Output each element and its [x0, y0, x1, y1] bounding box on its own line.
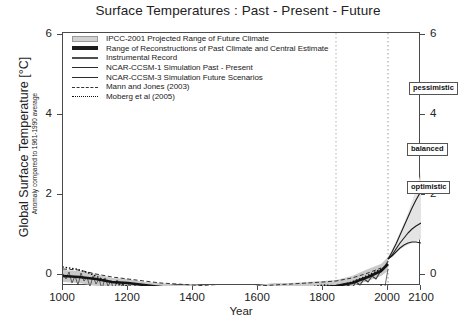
- legend-item-instrumental-record: Instrumental Record: [70, 53, 332, 63]
- x-axis-label: Year: [62, 305, 420, 317]
- annotation-pessimistic: pessimistic: [409, 82, 458, 95]
- y-tick-label-4: 4: [38, 108, 52, 120]
- legend-item-ccsm1: NCAR-CCSM-1 Simulation Past - Present: [70, 63, 332, 73]
- legend-label: Moberg et al (2005): [106, 92, 175, 101]
- x-tick-label-1600: 1600: [237, 292, 277, 304]
- legend-label: Instrumental Record: [106, 53, 177, 62]
- y-axis-label: Global Surface Temperature [°C]: [17, 47, 31, 247]
- legend-label: IPCC-2001 Projected Range of Future Clim…: [106, 34, 269, 43]
- legend-label: Mann and Jones (2003): [106, 82, 189, 91]
- x-tick-label-1800: 1800: [302, 292, 342, 304]
- y-tick-label-2: 2: [38, 188, 52, 200]
- annotation-balanced: balanced: [407, 143, 448, 156]
- legend-swatch-thin-line-icon: [70, 63, 100, 72]
- chart-title: Surface Temperatures : Past - Present - …: [0, 3, 476, 18]
- legend-swatch-band-icon: [70, 34, 100, 43]
- chart-legend: IPCC-2001 Projected Range of Future Clim…: [70, 34, 332, 101]
- legend-label: Range of Reconstructions of Past Climate…: [106, 44, 328, 53]
- y-tick-label-0: 0: [38, 268, 52, 280]
- legend-label: NCAR-CCSM-3 Simulation Future Scenarios: [106, 73, 263, 82]
- legend-swatch-medium-line-icon: [70, 53, 100, 62]
- legend-item-mann-jones: Mann and Jones (2003): [70, 82, 332, 92]
- legend-swatch-thick-line-icon: [70, 44, 100, 53]
- legend-item-ccsm3: NCAR-CCSM-3 Simulation Future Scenarios: [70, 72, 332, 82]
- legend-swatch-thin-line-icon: [70, 73, 100, 82]
- y-tick-label-right-0: 0: [430, 268, 444, 280]
- legend-swatch-dashed-line-icon: [70, 82, 100, 91]
- y-tick-label-right-4: 4: [430, 108, 444, 120]
- legend-item-reconstruction-range: Range of Reconstructions of Past Climate…: [70, 44, 332, 54]
- x-tick-label-1000: 1000: [42, 292, 82, 304]
- x-tick-label-1400: 1400: [172, 292, 212, 304]
- chart-figure: Surface Temperatures : Past - Present - …: [0, 0, 476, 328]
- legend-item-moberg: Moberg et al (2005): [70, 92, 332, 102]
- legend-swatch-dotted-line-icon: [70, 92, 100, 101]
- x-tick-label-1200: 1200: [107, 292, 147, 304]
- x-tick-label-2100: 2100: [401, 292, 441, 304]
- legend-item-ipcc-range: IPCC-2001 Projected Range of Future Clim…: [70, 34, 332, 44]
- y-axis-sublabel: Anomaly compared to 1961-1990 average: [31, 84, 38, 224]
- legend-label: NCAR-CCSM-1 Simulation Past - Present: [106, 63, 253, 72]
- annotation-optimistic: optimistic: [407, 181, 450, 194]
- y-tick-label-right-6: 6: [430, 28, 444, 40]
- y-tick-label-6: 6: [38, 28, 52, 40]
